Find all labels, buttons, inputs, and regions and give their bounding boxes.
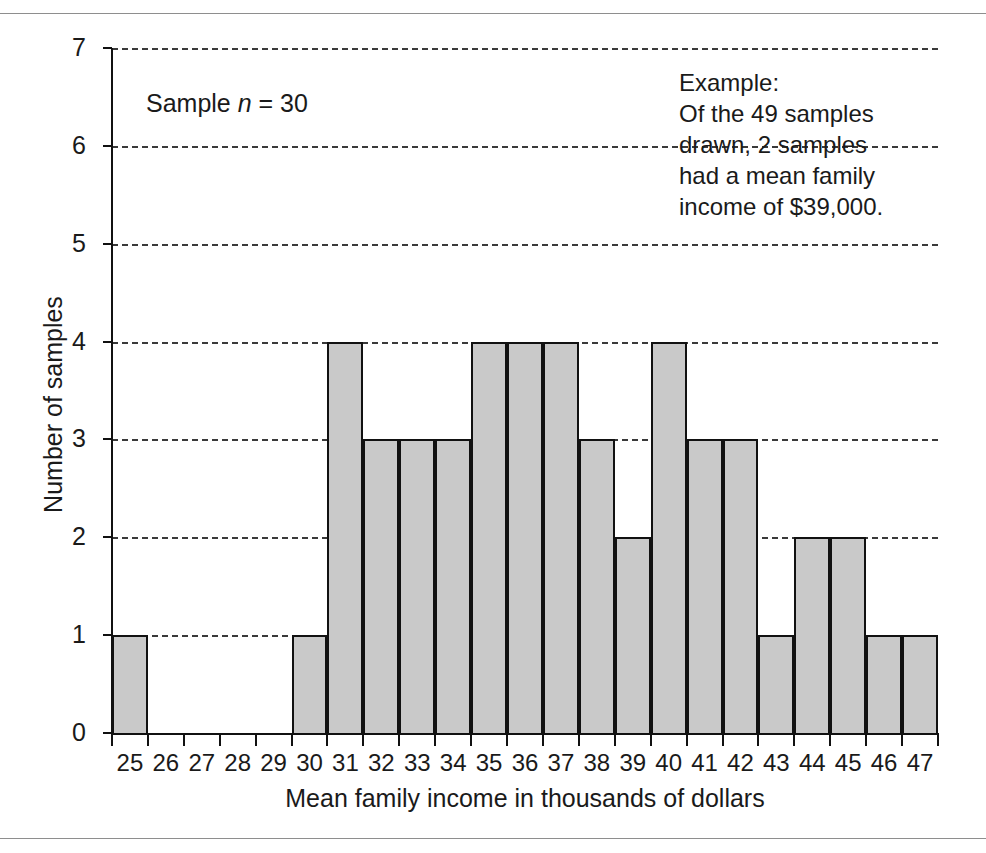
y-axis-title: Number of samples (39, 280, 68, 530)
x-tick-11 (506, 735, 508, 746)
histogram-bar (112, 635, 148, 735)
histogram-bar (507, 342, 543, 735)
x-tick-9 (434, 735, 436, 746)
y-axis-line (111, 48, 113, 735)
x-tick-18 (757, 735, 759, 746)
x-axis-title: Mean family income in thousands of dolla… (112, 784, 938, 813)
x-tick-label-47: 47 (896, 750, 944, 776)
histogram-bar (723, 439, 759, 735)
sample-note-prefix: Sample (146, 89, 238, 117)
x-tick-23 (937, 735, 939, 746)
histogram-bar (292, 635, 328, 735)
y-tick-6 (103, 145, 112, 147)
y-tick-2 (103, 536, 112, 538)
x-tick-0 (111, 735, 113, 746)
histogram-bar (399, 439, 435, 735)
y-tick-4 (103, 341, 112, 343)
figure-frame: 01234567 2526272829303132333435363738394… (0, 0, 986, 853)
histogram-bar (363, 439, 399, 735)
y-tick-label-1: 1 (46, 622, 86, 647)
histogram-bar (651, 342, 687, 735)
y-tick-label-5: 5 (46, 231, 86, 256)
x-tick-8 (398, 735, 400, 746)
y-tick-3 (103, 438, 112, 440)
sample-size-annotation: Sample n = 30 (146, 88, 308, 118)
histogram-bar (758, 635, 794, 735)
x-tick-7 (362, 735, 364, 746)
gridline-5 (112, 244, 938, 246)
x-tick-3 (219, 735, 221, 746)
y-tick-1 (103, 634, 112, 636)
x-tick-21 (865, 735, 867, 746)
x-tick-2 (183, 735, 185, 746)
y-tick-5 (103, 243, 112, 245)
histogram-bar (830, 537, 866, 735)
sample-note-suffix: = 30 (252, 89, 308, 117)
example-annotation: Example: Of the 49 samples drawn, 2 samp… (679, 67, 883, 222)
histogram-bar (327, 342, 363, 735)
y-tick-7 (103, 47, 112, 49)
y-tick-label-0: 0 (46, 720, 86, 745)
histogram-bar (435, 439, 471, 735)
x-tick-17 (722, 735, 724, 746)
histogram-bar (794, 537, 830, 735)
x-tick-5 (291, 735, 293, 746)
x-tick-14 (614, 735, 616, 746)
x-tick-1 (147, 735, 149, 746)
y-tick-label-6: 6 (46, 133, 86, 158)
y-tick-label-7: 7 (46, 35, 86, 60)
histogram-bar (543, 342, 579, 735)
histogram-bar (615, 537, 651, 735)
x-tick-13 (578, 735, 580, 746)
x-tick-16 (686, 735, 688, 746)
x-tick-19 (793, 735, 795, 746)
histogram-bar (687, 439, 723, 735)
x-tick-6 (326, 735, 328, 746)
histogram-bar (866, 635, 902, 735)
x-tick-15 (650, 735, 652, 746)
x-tick-22 (901, 735, 903, 746)
histogram-bar (471, 342, 507, 735)
x-tick-12 (542, 735, 544, 746)
gridline-7 (112, 48, 938, 50)
histogram-chart: 01234567 2526272829303132333435363738394… (0, 0, 986, 853)
sample-note-italic-n: n (238, 89, 252, 117)
x-tick-10 (470, 735, 472, 746)
x-tick-4 (255, 735, 257, 746)
histogram-bar (579, 439, 615, 735)
x-tick-20 (829, 735, 831, 746)
histogram-bar (902, 635, 938, 735)
